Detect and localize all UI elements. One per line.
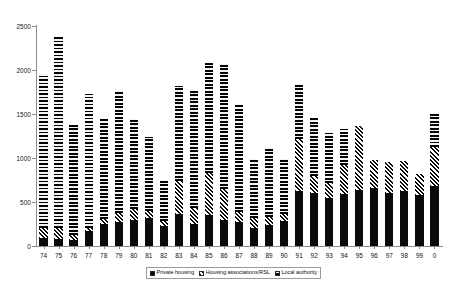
bar-93[interactable] [325,133,333,246]
bar-85[interactable] [205,63,213,246]
chart-legend: Private housingHousing associations/RSLL… [146,267,321,279]
bar-segment-housing-associations [190,208,198,224]
y-axis-tick-label: 0 [27,243,31,250]
bar-98[interactable] [400,161,408,246]
legend-item-2[interactable]: Local authority [275,270,317,276]
y-axis-tick-label: 2000 [16,67,31,74]
x-axis-tick-label: 99 [416,252,423,259]
x-axis-tick-label: 81 [145,252,152,259]
x-axis-tick-label: 84 [190,252,197,259]
bar-segment-housing-associations [280,214,288,221]
bar-segment-private-housing [85,231,93,246]
y-axis-tick-label: 2500 [16,23,31,30]
bar-segment-housing-associations [430,147,438,187]
x-axis-tick [239,246,240,249]
x-axis-tick-label: 89 [266,252,273,259]
bar-86[interactable] [220,64,228,246]
legend-swatch-icon [150,271,155,276]
bar-segment-private-housing [325,198,333,246]
bar-segment-private-housing [415,195,423,246]
bar-segment-local-authority [325,133,333,182]
bar-segment-local-authority [160,180,168,220]
bar-77[interactable] [85,94,93,246]
x-axis-tick [134,246,135,249]
legend-item-0[interactable]: Private housing [150,270,194,276]
bar-segment-local-authority [54,37,62,229]
bar-76[interactable] [69,125,77,246]
bar-segment-housing-associations [130,209,138,220]
bar-79[interactable] [115,91,123,246]
x-axis-tick [359,246,360,249]
x-axis-tick [209,246,210,249]
bar-83[interactable] [175,86,183,246]
bar-90[interactable] [280,159,288,246]
bar-92[interactable] [310,118,318,246]
bar-segment-private-housing [430,186,438,246]
x-axis-tick [119,246,120,249]
bar-segment-local-authority [85,94,93,228]
x-axis-tick [419,246,420,249]
legend-item-label: Housing associations/RSL [206,270,270,276]
bar-99[interactable] [415,174,423,246]
bar-chart: 05001000150020002500 Private housingHous… [0,0,455,293]
bar-segment-housing-associations [295,139,303,192]
bar-75[interactable] [54,37,62,246]
bar-segment-private-housing [100,224,108,246]
bar-96[interactable] [370,160,378,246]
bar-74[interactable] [39,74,47,246]
x-axis-tick [89,246,90,249]
bar-81[interactable] [145,137,153,246]
x-axis-tick-label: 86 [220,252,227,259]
plot-area: 05001000150020002500 [36,26,442,246]
bar-segment-private-housing [340,194,348,246]
y-axis-tick-label: 1000 [16,155,31,162]
x-axis-tick-label: 79 [115,252,122,259]
bar-segment-private-housing [145,218,153,246]
x-axis-tick-label: 88 [250,252,257,259]
bar-97[interactable] [385,162,393,246]
bar-segment-housing-associations [54,228,62,239]
y-axis-tick [32,246,36,247]
x-axis-tick-label: 77 [85,252,92,259]
bar-segment-private-housing [115,222,123,246]
bar-95[interactable] [355,126,363,246]
legend-item-1[interactable]: Housing associations/RSL [199,270,270,276]
y-axis-tick [32,26,36,27]
bar-94[interactable] [340,129,348,246]
bar-91[interactable] [295,84,303,246]
bar-segment-private-housing [54,239,62,246]
bar-segment-private-housing [235,222,243,246]
bar-segment-housing-associations [370,160,378,188]
bar-87[interactable] [235,104,243,246]
x-axis-tick-label: 91 [296,252,303,259]
x-axis-tick [194,246,195,249]
bar-segment-local-authority [430,113,438,146]
bar-segment-local-authority [340,129,348,165]
bar-segment-housing-associations [340,165,348,194]
bar-segment-private-housing [220,220,228,246]
bar-segment-local-authority [250,159,258,218]
bar-0[interactable] [430,113,438,246]
bar-segment-local-authority [130,119,138,209]
bar-segment-housing-associations [355,126,363,189]
bar-88[interactable] [250,159,258,246]
x-axis-tick-label: 74 [40,252,47,259]
bar-segment-local-authority [69,125,77,235]
bar-82[interactable] [160,180,168,246]
x-axis-tick-label: 80 [130,252,137,259]
bar-78[interactable] [100,119,108,246]
bar-80[interactable] [130,119,138,246]
x-axis-tick [389,246,390,249]
legend-swatch-icon [275,271,280,276]
x-axis-tick-label: 94 [341,252,348,259]
bar-89[interactable] [265,147,273,246]
bar-segment-housing-associations [39,228,47,238]
y-axis-tick [32,70,36,71]
x-axis-tick-label: 85 [205,252,212,259]
legend-swatch-icon [199,271,204,276]
bar-segment-private-housing [295,191,303,246]
bar-84[interactable] [190,89,198,247]
x-axis-tick [404,246,405,249]
bar-segment-private-housing [160,226,168,246]
bar-segment-local-authority [145,137,153,211]
